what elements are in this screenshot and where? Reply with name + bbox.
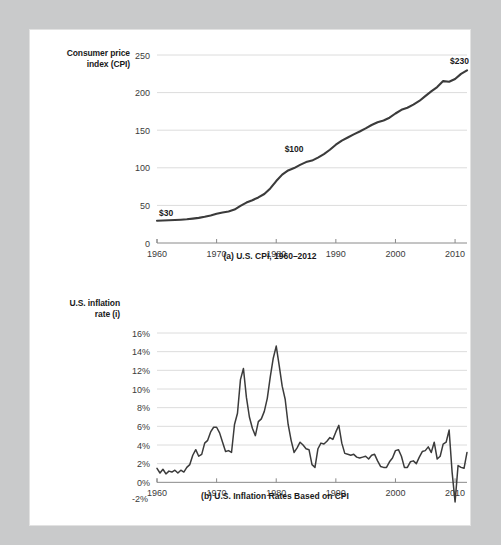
figure-b-y-tick: 10% bbox=[132, 385, 150, 395]
figure-a-caption: (a) U.S. CPI, 1960–2012 bbox=[150, 251, 390, 261]
figure-a-annotation: $230 bbox=[450, 56, 469, 66]
figure-a-y-tick: 0 bbox=[145, 239, 150, 249]
figure-b-y-tick: 8% bbox=[137, 403, 150, 413]
figure-b-y-tick: 12% bbox=[132, 366, 150, 376]
figure-a-plot: 050100150200250196019701980199020002010$… bbox=[30, 30, 470, 270]
figure-a-y-tick: 250 bbox=[135, 51, 150, 61]
figure-b-y-tick: 6% bbox=[137, 422, 150, 432]
figure-b-caption: (b) U.S. Inflation Rates Based on CPI bbox=[130, 491, 420, 501]
figure-a-annotation: $100 bbox=[285, 144, 304, 154]
figure-b-y-tick: 14% bbox=[132, 347, 150, 357]
figure-a-y-tick: 50 bbox=[140, 201, 150, 211]
figure-b-plot: -2%0%2%4%6%8%10%12%14%16%196019701980199… bbox=[30, 280, 470, 505]
figure-a-x-tick: 2010 bbox=[445, 249, 465, 259]
figure-a-y-tick: 150 bbox=[135, 126, 150, 136]
figure-a-annotation: $30 bbox=[159, 208, 173, 218]
figure-b-data-line bbox=[157, 346, 467, 502]
figure-a-y-tick: 100 bbox=[135, 163, 150, 173]
figure-b-y-tick: 0% bbox=[137, 478, 150, 488]
figure-b-y-tick: 16% bbox=[132, 329, 150, 339]
figure-b-y-tick: 2% bbox=[137, 459, 150, 469]
figure-b-y-tick: 4% bbox=[137, 441, 150, 451]
figure-page: Consumer price index (CPI) 0501001502002… bbox=[30, 30, 470, 525]
figure-a-y-tick: 200 bbox=[135, 88, 150, 98]
